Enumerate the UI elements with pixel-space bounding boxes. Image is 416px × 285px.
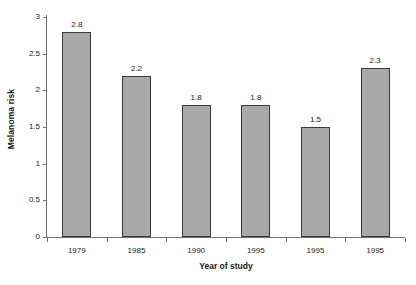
y-axis-tick-mark	[43, 200, 47, 201]
x-axis-tick-mark	[47, 238, 48, 242]
bar-value-label: 1.5	[296, 114, 336, 125]
x-axis-tick-mark	[405, 238, 406, 242]
bar-value-label: 2.3	[355, 55, 395, 66]
x-axis-tick-mark	[345, 238, 346, 242]
y-axis-tick: 1.5	[0, 127, 47, 128]
bar-value-label: 1.8	[176, 92, 216, 103]
y-axis-tick: 3	[0, 17, 47, 18]
bar	[182, 105, 211, 237]
x-axis-tick-label: 1995	[231, 245, 281, 256]
x-axis-tick-label: 1979	[52, 245, 102, 256]
y-axis-tick-mark	[43, 164, 47, 165]
y-axis-tick-mark	[43, 54, 47, 55]
y-axis-tick: 2.5	[0, 54, 47, 55]
y-axis-tick-label: 2	[36, 84, 40, 95]
x-axis-tick-label: 1995	[350, 245, 400, 256]
x-axis-tick-mark	[107, 238, 108, 242]
y-axis-tick-label: 0	[36, 231, 40, 242]
x-axis-tick-label: 1985	[112, 245, 162, 256]
y-axis-tick: 1	[0, 164, 47, 165]
x-axis-tick-mark	[286, 238, 287, 242]
x-axis-tick-label: 1995	[291, 245, 341, 256]
x-axis-title: Year of study	[47, 261, 405, 271]
y-axis-tick-mark	[43, 127, 47, 128]
bar	[62, 32, 91, 237]
y-axis-title-text: Melanoma risk	[6, 88, 16, 148]
y-axis-tick: 0.5	[0, 200, 47, 201]
bar-value-label: 2.8	[57, 19, 97, 30]
bar	[122, 76, 151, 237]
x-axis-tick-mark	[226, 238, 227, 242]
bar-value-label: 1.8	[236, 92, 276, 103]
melanoma-risk-bar-chart: Melanoma risk 00.511.522.53 197919851990…	[0, 0, 416, 285]
bar-value-label: 2.2	[117, 63, 157, 74]
y-axis-tick: 0	[0, 237, 47, 238]
y-axis-tick-mark	[43, 90, 47, 91]
y-axis-tick: 2	[0, 90, 47, 91]
y-axis-tick-label: 2.5	[29, 48, 40, 59]
bar	[241, 105, 270, 237]
x-axis-tick-mark	[166, 238, 167, 242]
x-axis-tick-label: 1990	[171, 245, 221, 256]
y-axis-tick-label: 0.5	[29, 194, 40, 205]
bar	[361, 68, 390, 237]
bar	[301, 127, 330, 237]
y-axis-tick-label: 3	[36, 11, 40, 22]
y-axis-title: Melanoma risk	[0, 0, 22, 237]
y-axis-tick-label: 1.5	[29, 121, 40, 132]
y-axis-tick-mark	[43, 17, 47, 18]
y-axis-tick-label: 1	[36, 158, 40, 169]
